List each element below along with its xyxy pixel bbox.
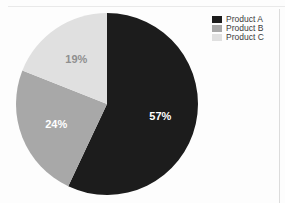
- pie-slice-value-label: 19%: [65, 53, 87, 65]
- pie-chart-plot-area: 57%24%19%: [15, 12, 199, 196]
- pie-chart-svg: 57%24%19%: [15, 12, 199, 196]
- legend-color-swatch: [212, 16, 222, 23]
- chart-legend: Product AProduct BProduct C: [212, 15, 278, 42]
- page-top-rule: [8, 6, 285, 7]
- legend-item[interactable]: Product C: [212, 33, 278, 42]
- legend-color-swatch: [212, 25, 222, 32]
- legend-color-swatch: [212, 34, 222, 41]
- pie-slice-value-label: 24%: [45, 118, 67, 130]
- legend-item-label: Product C: [226, 33, 264, 42]
- pie-chart-figure: 57%24%19% Product AProduct BProduct C: [0, 0, 285, 203]
- page-right-rule: [279, 9, 280, 203]
- pie-slice-value-label: 57%: [149, 110, 171, 122]
